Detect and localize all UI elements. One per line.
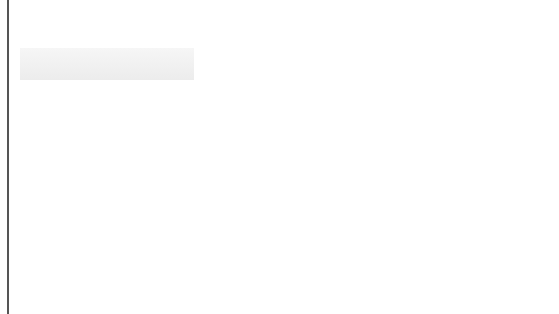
ridge-cross-section-diagram — [0, 0, 559, 314]
